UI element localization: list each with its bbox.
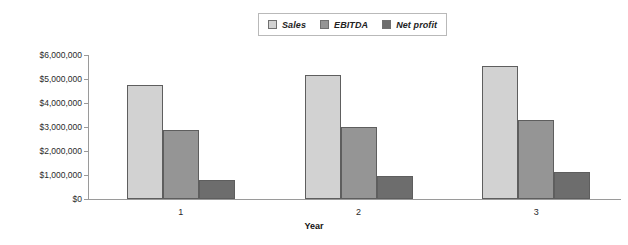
y-axis-tick-mark xyxy=(84,199,88,200)
bar-sales[interactable] xyxy=(127,85,163,199)
legend-label: Net profit xyxy=(396,20,437,30)
y-axis-tick-label: $0 xyxy=(0,194,82,204)
y-axis-tick-label: $6,000,000 xyxy=(0,50,82,60)
bar-ebitda[interactable] xyxy=(341,127,377,199)
x-axis-tick-label: 2 xyxy=(356,207,361,217)
y-axis-tick-mark xyxy=(84,79,88,80)
legend-label: Sales xyxy=(282,20,306,30)
y-axis-tick-label: $5,000,000 xyxy=(0,74,82,84)
legend-label: EBITDA xyxy=(334,20,368,30)
legend-item-net-profit[interactable]: Net profit xyxy=(382,20,437,30)
y-axis-tick-mark xyxy=(84,55,88,56)
plot-area: $0$1,000,000$2,000,000$3,000,000$4,000,0… xyxy=(88,55,621,199)
bar-sales[interactable] xyxy=(482,66,518,199)
y-axis-tick-label: $4,000,000 xyxy=(0,98,82,108)
x-axis-tick-label: 1 xyxy=(178,207,183,217)
y-axis-tick-mark xyxy=(84,151,88,152)
y-axis-tick-label: $3,000,000 xyxy=(0,122,82,132)
chart-legend: SalesEBITDANet profit xyxy=(258,13,447,36)
bar-group xyxy=(482,55,590,199)
bar-ebitda[interactable] xyxy=(518,120,554,199)
y-axis-tick-mark xyxy=(84,175,88,176)
x-axis-title: Year xyxy=(0,221,628,231)
bar-ebitda[interactable] xyxy=(163,130,199,199)
legend-swatch-icon xyxy=(320,20,329,29)
legend-item-sales[interactable]: Sales xyxy=(268,20,306,30)
bar-chart: SalesEBITDANet profit $0$1,000,000$2,000… xyxy=(0,0,628,245)
legend-item-ebitda[interactable]: EBITDA xyxy=(320,20,368,30)
y-axis-tick-label: $2,000,000 xyxy=(0,146,82,156)
legend-swatch-icon xyxy=(382,20,391,29)
x-axis-tick-label: 3 xyxy=(534,207,539,217)
bar-net-profit[interactable] xyxy=(554,172,590,199)
legend-swatch-icon xyxy=(268,20,277,29)
y-axis-tick-mark xyxy=(84,103,88,104)
y-axis-tick-label: $1,000,000 xyxy=(0,170,82,180)
bar-net-profit[interactable] xyxy=(199,180,235,199)
x-axis-line xyxy=(88,199,621,200)
y-axis-line xyxy=(88,55,89,200)
bar-group xyxy=(305,55,413,199)
y-axis-tick-mark xyxy=(84,127,88,128)
bar-net-profit[interactable] xyxy=(377,176,413,199)
bar-group xyxy=(127,55,235,199)
bar-sales[interactable] xyxy=(305,75,341,199)
